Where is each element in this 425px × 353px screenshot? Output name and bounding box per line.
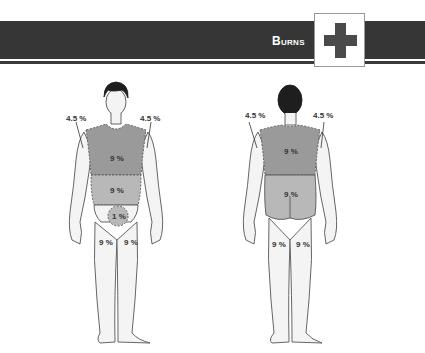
back-right-leg-label: 9 % — [296, 240, 310, 249]
back-upper-back-label: 9 % — [284, 147, 298, 156]
front-left-arm-label: 4.5 % — [66, 114, 86, 123]
back-body-figure — [0, 0, 425, 353]
back-left-leg-label: 9 % — [272, 240, 286, 249]
front-abdomen-label: 9 % — [110, 186, 124, 195]
front-chest-label: 9 % — [110, 154, 124, 163]
front-left-leg-label: 9 % — [99, 238, 113, 247]
front-groin-label: 1 % — [112, 212, 126, 221]
back-left-arm-label: 4.5 % — [245, 111, 265, 120]
back-right-arm-label: 4.5 % — [313, 111, 333, 120]
back-lower-back-label: 9 % — [284, 190, 298, 199]
front-right-leg-label: 9 % — [124, 238, 138, 247]
front-right-arm-label: 4.5 % — [140, 114, 160, 123]
